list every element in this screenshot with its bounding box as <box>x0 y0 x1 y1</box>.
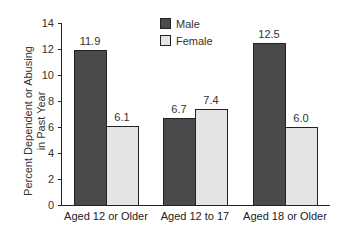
female-bar <box>106 126 139 206</box>
value-label: 7.4 <box>191 95 231 106</box>
y-tick-label: 4 <box>34 148 54 159</box>
y-tick-label: 14 <box>34 18 54 29</box>
female-swatch <box>160 35 171 46</box>
y-tick <box>58 127 62 128</box>
y-tick <box>58 179 62 180</box>
y-tick-label: 12 <box>34 44 54 55</box>
male-swatch <box>160 18 171 29</box>
legend-label-female: Female <box>176 35 213 47</box>
y-tick <box>58 75 62 76</box>
legend-item-male: Male <box>160 15 213 32</box>
y-tick-label: 0 <box>34 200 54 211</box>
y-tick-label: 2 <box>34 174 54 185</box>
y-tick <box>58 153 62 154</box>
y-tick <box>58 101 62 102</box>
male-bar <box>74 50 107 206</box>
y-tick-label: 6 <box>34 122 54 133</box>
y-tick <box>58 49 62 50</box>
bar-chart: Percent Dependent or Abusing in Past Yea… <box>0 0 351 232</box>
legend-label-male: Male <box>176 18 200 30</box>
y-tick <box>58 23 62 24</box>
y-tick <box>58 205 62 206</box>
female-bar <box>195 109 228 206</box>
legend: Male Female <box>160 15 213 49</box>
male-bar <box>163 118 196 206</box>
category-label: Aged 12 or Older <box>56 210 156 223</box>
category-label: Aged 12 to 17 <box>145 210 245 223</box>
male-bar <box>253 43 286 207</box>
value-label: 11.9 <box>70 36 110 47</box>
value-label: 6.1 <box>102 112 142 123</box>
category-label: Aged 18 or Older <box>235 210 335 223</box>
value-label: 12.5 <box>249 29 289 40</box>
y-tick-label: 8 <box>34 96 54 107</box>
legend-item-female: Female <box>160 32 213 49</box>
value-label: 6.0 <box>281 113 321 124</box>
y-tick-label: 10 <box>34 70 54 81</box>
female-bar <box>285 127 318 206</box>
